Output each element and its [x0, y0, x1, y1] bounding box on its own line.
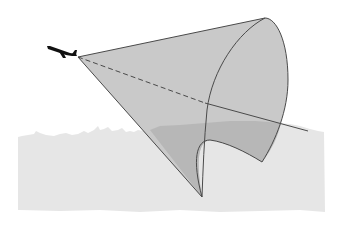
- diagram-canvas: Aircraft emitting a conical beam/field o…: [0, 0, 341, 225]
- diagram-svg: [0, 0, 341, 225]
- airplane-icon: [47, 46, 77, 58]
